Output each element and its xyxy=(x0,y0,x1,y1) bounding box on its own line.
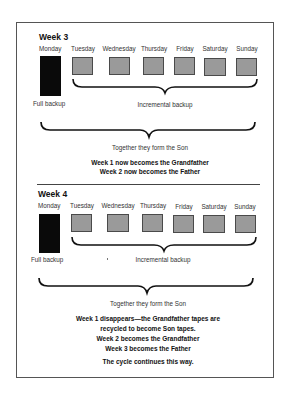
day-label-tuesday: Tuesday xyxy=(71,45,95,52)
incremental-brace-icon xyxy=(71,236,257,252)
day-label-wednesday: Wednesday xyxy=(101,202,134,209)
week-4-note-3: Week 2 becomes the Grandfather xyxy=(97,334,200,344)
day-label-friday: Friday xyxy=(175,203,193,210)
incremental-backup-label: Incremental backup xyxy=(138,101,193,108)
incremental-tape-sunday xyxy=(235,215,256,233)
incremental-tape-friday xyxy=(173,215,194,233)
week-4-note-4: Week 3 becomes the Father xyxy=(105,344,191,354)
incremental-tape-thursday xyxy=(142,214,163,232)
day-label-sunday: Sunday xyxy=(234,203,255,210)
day-label-saturday: Saturday xyxy=(202,45,227,52)
cycle-closing-note: The cycle continues this way. xyxy=(103,357,194,367)
incremental-brace-icon xyxy=(72,78,258,94)
week-4-note-2: recycled to become Son tapes. xyxy=(100,324,195,334)
incremental-tape-sunday xyxy=(236,58,257,76)
day-label-friday: Friday xyxy=(176,45,194,52)
day-label-thursday: Thursday xyxy=(140,202,166,209)
full-backup-label: Full backup xyxy=(31,256,63,263)
day-label-monday: Monday xyxy=(38,202,60,209)
incremental-tape-tuesday xyxy=(72,57,93,75)
full-backup-tape xyxy=(39,214,60,253)
day-label-wednesday: Wednesday xyxy=(102,45,135,52)
week-4-title: Week 4 xyxy=(38,189,67,199)
day-label-sunday: Sunday xyxy=(236,45,257,52)
incremental-tape-friday xyxy=(174,57,195,75)
day-label-tuesday: Tuesday xyxy=(70,202,94,209)
stray-mark xyxy=(107,258,108,260)
section-divider xyxy=(37,184,260,185)
together-son-label: Together they form the Son xyxy=(112,144,188,151)
son-brace-icon xyxy=(40,121,256,138)
together-son-label: Together they form the Son xyxy=(110,300,186,307)
incremental-tape-wednesday xyxy=(109,57,130,75)
incremental-tape-saturday xyxy=(203,215,225,233)
incremental-tape-tuesday xyxy=(71,214,92,232)
week-3-title: Week 3 xyxy=(39,32,68,42)
day-label-monday: Monday xyxy=(39,45,61,52)
incremental-tape-wednesday xyxy=(107,214,129,232)
week-3-note-2: Week 2 now becomes the Father xyxy=(100,167,200,177)
incremental-backup-label: Incremental backup xyxy=(136,256,191,263)
day-label-thursday: Thursday xyxy=(141,45,167,52)
week-4-note-1: Week 1 disappears—the Grandfather tapes … xyxy=(76,314,220,324)
incremental-tape-thursday xyxy=(143,57,164,75)
son-brace-icon xyxy=(38,277,254,294)
full-backup-tape xyxy=(40,56,61,96)
incremental-tape-saturday xyxy=(204,58,226,76)
day-label-saturday: Saturday xyxy=(201,203,226,210)
full-backup-label: Full backup xyxy=(33,100,65,107)
